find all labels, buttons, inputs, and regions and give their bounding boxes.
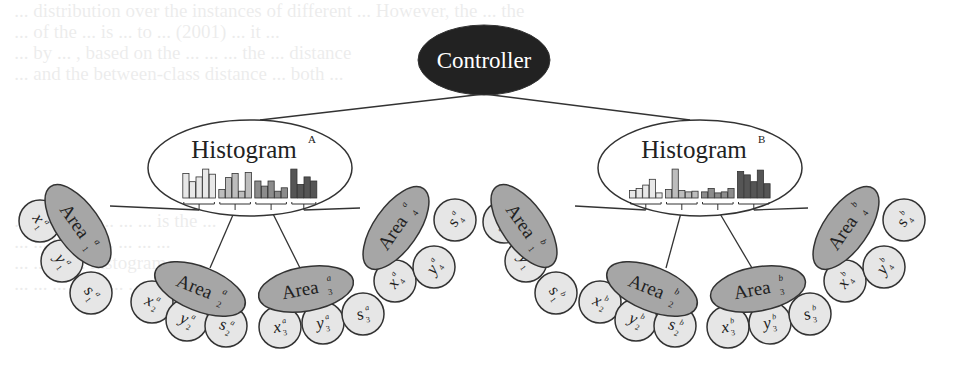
edge-histogram-area-A1 bbox=[110, 206, 199, 210]
histogram-bar bbox=[304, 177, 310, 198]
histogram-bar bbox=[672, 169, 678, 198]
histogram-bar bbox=[268, 181, 274, 198]
edge-histogram-area-A2 bbox=[210, 210, 235, 268]
histogram-label: Histogram bbox=[191, 136, 297, 163]
histogram-bar bbox=[649, 179, 655, 198]
histogram-bar bbox=[702, 192, 708, 198]
histogram-bar bbox=[636, 188, 642, 198]
leaf-node-y-4-b: yb4 bbox=[863, 246, 905, 288]
leaf-node-s-1-a: sa1 bbox=[70, 272, 112, 314]
area-node-b3: xb3yb3sb3Areab3 bbox=[707, 259, 831, 348]
area-node-b2: xb2yb2sb2Areab2 bbox=[579, 251, 705, 347]
histogram-bar bbox=[643, 185, 649, 198]
histogram-bar bbox=[728, 188, 734, 198]
histogram-bar bbox=[744, 175, 750, 198]
histogram-bar bbox=[708, 188, 714, 198]
histogram-bar bbox=[183, 174, 189, 198]
histogram-bar bbox=[275, 191, 281, 198]
edge-histogram-area-B2 bbox=[666, 210, 682, 268]
histogram-bar bbox=[281, 188, 287, 198]
histogram-node-A: HistogramA bbox=[148, 120, 352, 216]
leaf-node-s-3-b: sb3 bbox=[789, 293, 831, 335]
histogram-label: Histogram bbox=[641, 136, 747, 163]
histogram-superscript: B bbox=[758, 133, 765, 145]
histogram-bar bbox=[679, 191, 685, 198]
histogram-bar bbox=[219, 190, 225, 199]
area-node-b1: xb1yb1sb1Areab1 bbox=[478, 174, 577, 314]
controller-label: Controller bbox=[437, 48, 532, 73]
controller-node: Controller bbox=[418, 25, 550, 95]
histogram-bar bbox=[255, 181, 261, 198]
leaf-node-s-3-a: sa3 bbox=[342, 293, 384, 335]
histogram-bar bbox=[757, 170, 763, 198]
histogram-bar bbox=[261, 186, 267, 198]
hierarchy-diagram: Controller HistogramAHistogramB xa1ya1sa… bbox=[0, 0, 961, 384]
histogram-bar bbox=[239, 191, 245, 198]
histogram-bar bbox=[764, 184, 770, 198]
edge-histogram-area-B4 bbox=[754, 208, 808, 210]
histogram-bar bbox=[291, 169, 297, 198]
histogram-bar bbox=[685, 192, 691, 198]
histogram-bar bbox=[751, 182, 757, 198]
leaf-node-s-4-b: sb4 bbox=[883, 199, 925, 241]
histogram-bar bbox=[738, 171, 744, 198]
histogram-bar bbox=[297, 184, 303, 198]
histogram-bar bbox=[666, 190, 672, 199]
histogram-bar bbox=[311, 181, 317, 198]
areas: xa1ya1sa1Areaa1xa2ya2sa2Areaa2xa3ya3sa3A… bbox=[19, 174, 925, 348]
histogram-bar bbox=[225, 178, 231, 198]
histogram-superscript: A bbox=[308, 133, 316, 145]
histogram-bar bbox=[196, 177, 202, 198]
leaf-node-s-4-a: sa4 bbox=[434, 199, 476, 241]
edge-controller-histogram-A bbox=[260, 94, 484, 120]
histogram-bar bbox=[209, 174, 215, 198]
histogram-bar bbox=[189, 182, 195, 198]
edge-histogram-area-B3 bbox=[718, 210, 752, 268]
area-node-b4: xb4yb4sb4Areab4 bbox=[800, 176, 925, 302]
area-node-a3: xa3ya3sa3Areaa3 bbox=[255, 259, 384, 348]
histogram-node-B: HistogramB bbox=[598, 120, 802, 216]
edge-histogram-area-A3 bbox=[271, 210, 300, 268]
edge-histogram-area-A4 bbox=[304, 208, 360, 210]
histograms: HistogramAHistogramB bbox=[148, 120, 802, 216]
leaf-node-y-4-a: ya4 bbox=[413, 246, 455, 288]
histogram-bar bbox=[692, 191, 698, 198]
histogram-bar bbox=[656, 193, 662, 198]
edge-histogram-area-B1 bbox=[575, 206, 646, 210]
area-node-a4: xa4ya4sa4Areaa4 bbox=[350, 176, 476, 302]
histogram-ellipse bbox=[598, 120, 802, 216]
histogram-bars bbox=[183, 169, 317, 198]
leaf-node-s-1-b: sb1 bbox=[535, 272, 577, 314]
histogram-ellipse bbox=[148, 120, 352, 216]
histogram-bar bbox=[245, 173, 251, 199]
histogram-bar bbox=[232, 174, 238, 198]
histogram-bar bbox=[203, 169, 209, 198]
area-node-a2: xa2ya2sa2Areaa2 bbox=[131, 251, 253, 347]
histogram-bar bbox=[721, 192, 727, 198]
edge-controller-histogram-B bbox=[484, 94, 690, 120]
area-node-a1: xa1ya1sa1Areaa1 bbox=[19, 174, 124, 314]
histogram-bar bbox=[715, 193, 721, 198]
histogram-bar bbox=[630, 191, 636, 198]
